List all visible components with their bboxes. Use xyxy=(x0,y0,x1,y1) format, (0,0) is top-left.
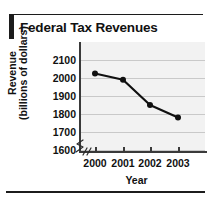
chart-title-banner: Federal Tax Revenues xyxy=(9,14,203,39)
y-tick-label: 2100 xyxy=(53,54,76,66)
y-tick-label: 1900 xyxy=(53,90,76,102)
y-tick-label: 1700 xyxy=(53,126,76,138)
plot-area xyxy=(81,42,205,152)
gridline-1900 xyxy=(81,96,205,97)
gridline-1700 xyxy=(81,132,205,133)
gridline-1800 xyxy=(81,114,205,115)
x-tick-label: 2002 xyxy=(138,157,161,169)
x-tick-mark xyxy=(150,147,152,153)
x-tick-label: 2000 xyxy=(83,157,106,169)
y-axis-title-line2: (billions of dollars) xyxy=(18,26,29,120)
gridline-2100 xyxy=(81,60,205,61)
y-tick-label: 2000 xyxy=(53,72,76,84)
y-axis-line xyxy=(79,42,81,152)
page-title: Federal Tax Revenues xyxy=(14,20,158,35)
x-axis-title: Year xyxy=(0,174,211,186)
x-axis-line xyxy=(79,151,207,153)
x-tick-label: 2003 xyxy=(166,157,189,169)
y-axis-ticks: 2100 2000 1900 1800 1700 1600 xyxy=(38,42,76,152)
y-axis-title: Revenue (billions of dollars) xyxy=(2,23,34,123)
gridline-2000 xyxy=(81,78,205,79)
x-tick-mark xyxy=(178,147,180,153)
axis-break-icon xyxy=(72,139,96,156)
x-tick-mark xyxy=(123,147,125,153)
chart-figure: Federal Tax Revenues 2100 2000 1900 1800… xyxy=(0,0,211,201)
bottom-divider xyxy=(6,191,205,193)
y-tick-label: 1800 xyxy=(53,108,76,120)
x-tick-label: 2001 xyxy=(111,157,134,169)
